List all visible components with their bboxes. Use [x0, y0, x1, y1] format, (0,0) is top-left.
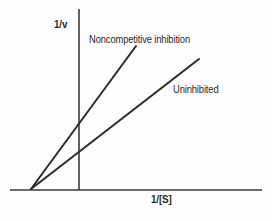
series-label-uninhibited: Uninhibited: [173, 84, 218, 95]
series-line-uninhibited: [31, 59, 199, 189]
lineweaver-burk-plot: 1/v 1/[S] Noncompetitive inhibition Unin…: [0, 0, 272, 221]
y-axis-label: 1/v: [54, 19, 67, 30]
series-line-noncompetitive: [31, 46, 136, 189]
series-label-noncompetitive: Noncompetitive inhibition: [89, 34, 190, 45]
x-axis-label: 1/[S]: [151, 194, 172, 205]
